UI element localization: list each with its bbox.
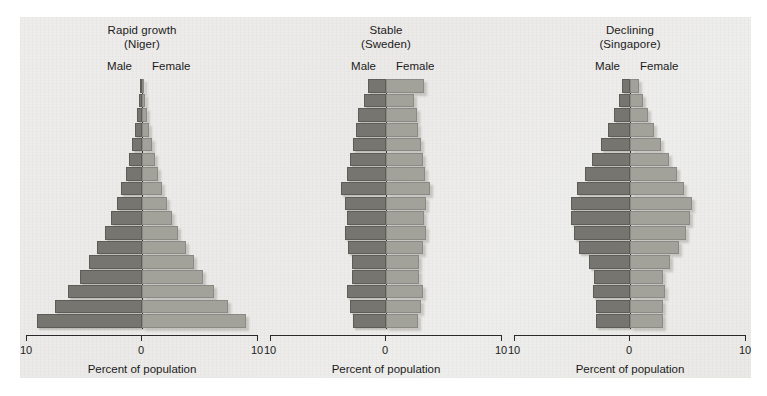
female-bar — [630, 255, 670, 269]
male-bar — [345, 197, 386, 211]
female-bar — [386, 108, 417, 122]
male-bar — [356, 123, 386, 137]
male-bar — [129, 153, 142, 167]
female-bar — [630, 197, 692, 211]
pyramid-row — [20, 108, 264, 122]
pyramid-row — [264, 197, 508, 211]
male-bar — [579, 241, 630, 255]
x-axis-line — [270, 335, 502, 336]
female-bar — [386, 123, 418, 137]
male-bar — [97, 241, 142, 255]
pyramid-row — [508, 226, 752, 240]
pyramid-row — [264, 153, 508, 167]
male-bar — [37, 314, 142, 328]
male-legend-label: Male — [595, 60, 620, 72]
male-bar — [577, 182, 630, 196]
female-bar — [142, 226, 178, 240]
pyramid-row — [20, 153, 264, 167]
male-bar — [347, 167, 386, 181]
female-bar — [386, 79, 424, 93]
pyramid-row — [20, 270, 264, 284]
female-bar — [142, 300, 228, 314]
x-axis-title: Percent of population — [264, 363, 508, 375]
pyramid-row — [20, 197, 264, 211]
female-legend-label: Female — [396, 60, 434, 72]
x-tick-label-left: 10 — [6, 344, 46, 356]
female-bar — [386, 285, 423, 299]
female-bar — [630, 211, 690, 225]
female-bar — [386, 255, 419, 269]
female-bar — [386, 314, 418, 328]
male-bar — [347, 285, 386, 299]
female-bar — [630, 182, 684, 196]
pyramid-row — [20, 285, 264, 299]
pyramid-row — [20, 123, 264, 137]
male-bar — [622, 79, 630, 93]
female-bar — [386, 138, 421, 152]
pyramid-row — [264, 226, 508, 240]
male-bar — [352, 255, 387, 269]
x-tick-right — [501, 335, 502, 341]
x-tick-label-left: 10 — [494, 344, 534, 356]
male-bar — [117, 197, 142, 211]
female-bar — [142, 182, 162, 196]
female-bar — [142, 314, 246, 328]
female-bar — [142, 123, 149, 137]
pyramid-row — [508, 270, 752, 284]
plot-area — [20, 79, 264, 329]
pyramid-row — [264, 167, 508, 181]
x-axis-title: Percent of population — [508, 363, 752, 375]
x-tick-label-center: 0 — [365, 344, 405, 356]
male-legend-label: Male — [351, 60, 376, 72]
male-bar — [345, 226, 386, 240]
pyramid-sweden: Stable (Sweden) Male Female 10 0 10 Perc… — [264, 17, 508, 378]
male-bar — [574, 226, 630, 240]
x-tick-label-center: 0 — [121, 344, 161, 356]
pyramid-row — [508, 197, 752, 211]
female-bar — [386, 300, 421, 314]
male-bar — [121, 182, 142, 196]
male-bar — [350, 153, 386, 167]
male-bar — [619, 94, 631, 108]
male-bar — [105, 226, 142, 240]
male-bar — [608, 123, 630, 137]
pyramid-row — [20, 241, 264, 255]
male-bar — [347, 211, 386, 225]
male-bar — [55, 300, 142, 314]
female-bar — [142, 94, 145, 108]
female-bar — [142, 79, 144, 93]
male-legend-label: Male — [107, 60, 132, 72]
pyramid-row — [264, 285, 508, 299]
x-tick-center — [385, 335, 386, 341]
pyramid-row — [20, 255, 264, 269]
female-bar — [630, 153, 669, 167]
pyramid-row — [20, 314, 264, 328]
male-bar — [596, 314, 631, 328]
female-bar — [386, 270, 419, 284]
x-tick-left — [270, 335, 271, 341]
pyramid-singapore: Declining (Singapore) Male Female 10 0 1… — [508, 17, 752, 378]
male-bar — [589, 255, 630, 269]
male-bar — [353, 314, 386, 328]
male-bar — [111, 211, 142, 225]
female-bar — [630, 300, 663, 314]
pyramid-niger: Rapid growth (Niger) Male Female 10 0 10… — [20, 17, 264, 378]
pyramid-row — [508, 182, 752, 196]
female-bar — [142, 270, 203, 284]
pyramid-row — [508, 167, 752, 181]
male-bar — [368, 79, 386, 93]
female-bar — [386, 182, 430, 196]
male-bar — [571, 211, 630, 225]
male-bar — [126, 167, 142, 181]
panel-title-line1: Rapid growth — [20, 24, 264, 36]
pyramid-row — [20, 167, 264, 181]
pyramid-row — [20, 300, 264, 314]
male-bar — [348, 241, 386, 255]
male-bar — [364, 94, 386, 108]
x-tick-center — [629, 335, 630, 341]
male-bar — [132, 138, 142, 152]
pyramid-row — [264, 108, 508, 122]
x-tick-right — [745, 335, 746, 341]
male-bar — [341, 182, 386, 196]
female-bar — [630, 314, 663, 328]
